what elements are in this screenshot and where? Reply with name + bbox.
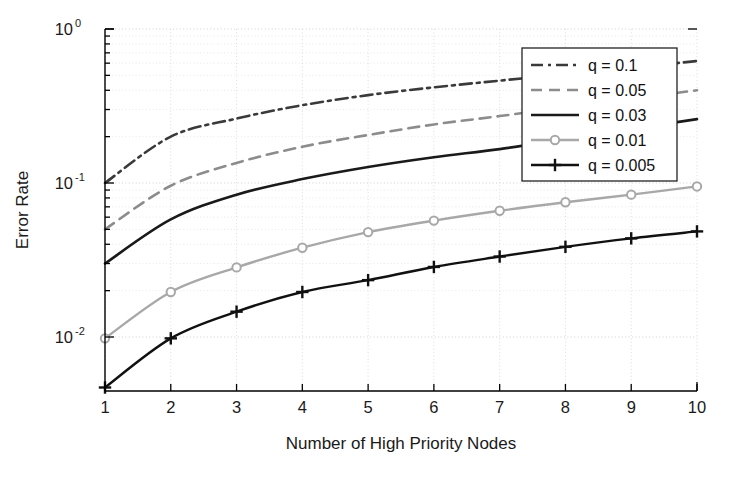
x-tick-label: 5 — [364, 398, 373, 416]
data-point-marker-circle — [167, 288, 175, 296]
x-tick-label: 1 — [100, 398, 109, 416]
x-tick-label: 4 — [298, 398, 307, 416]
data-point-marker-circle — [298, 244, 306, 252]
svg-text:10: 10 — [55, 328, 73, 346]
legend-label: q = 0.03 — [588, 107, 646, 124]
svg-text:-1: -1 — [75, 171, 85, 183]
svg-text:0: 0 — [75, 17, 81, 29]
legend-marker-circle — [551, 136, 559, 144]
x-axis-title: Number of High Priority Nodes — [286, 434, 517, 453]
data-point-marker-circle — [495, 207, 503, 215]
legend-box[interactable]: q = 0.1q = 0.05q = 0.03q = 0.01q = 0.005 — [522, 48, 677, 181]
data-point-marker-circle — [364, 228, 372, 236]
data-point-marker-circle — [627, 190, 635, 198]
x-tick-label: 9 — [627, 398, 636, 416]
x-tick-label: 3 — [232, 398, 241, 416]
figure-container: 1234567891010010-110-2 q = 0.1q = 0.05q … — [0, 0, 729, 482]
error-rate-line-chart: 1234567891010010-110-2 q = 0.1q = 0.05q … — [0, 0, 729, 482]
data-point-marker-circle — [430, 216, 438, 224]
x-tick-label: 7 — [495, 398, 504, 416]
data-point-marker-circle — [232, 263, 240, 271]
svg-text:-2: -2 — [75, 325, 85, 337]
x-tick-label: 8 — [561, 398, 570, 416]
data-point-marker-circle — [561, 198, 569, 206]
legend-label: q = 0.01 — [588, 132, 646, 149]
x-tick-label: 2 — [166, 398, 175, 416]
x-tick-label: 10 — [688, 398, 706, 416]
svg-text:10: 10 — [55, 20, 73, 38]
data-point-marker-circle — [693, 182, 701, 190]
svg-text:10: 10 — [55, 174, 73, 192]
legend-label: q = 0.005 — [588, 157, 655, 174]
legend-label: q = 0.1 — [588, 57, 637, 74]
legend-label: q = 0.05 — [588, 82, 646, 99]
x-tick-label: 6 — [429, 398, 438, 416]
y-axis-title: Error Rate — [13, 171, 32, 249]
